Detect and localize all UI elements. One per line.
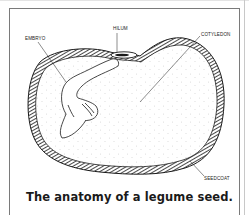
seedcoat-leader [190, 161, 204, 176]
figure-caption: The anatomy of a legume seed. [26, 190, 233, 204]
legume-seed-diagram: HILUM EMBRYO COTYLEDON SEEDCOAT [0, 0, 249, 215]
embryo-label: EMBRYO [25, 36, 46, 41]
hilum-scar [115, 54, 129, 57]
cotyledon-label: COTYLEDON [201, 32, 231, 37]
hilum-label: HILUM [113, 26, 128, 31]
seedcoat-label: SEEDCOAT [204, 176, 230, 181]
